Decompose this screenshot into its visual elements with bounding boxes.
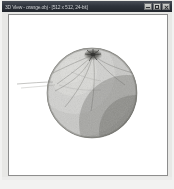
client-area	[8, 14, 168, 176]
title-bar-spacer	[88, 6, 144, 7]
close-button[interactable]	[162, 3, 170, 10]
minimize-button[interactable]	[144, 3, 152, 10]
minimize-icon	[146, 7, 150, 8]
application-window: 3D View - orange.obj - [512 x 512, 24-bi…	[2, 0, 172, 180]
render-viewport[interactable]	[9, 15, 167, 175]
sphere-render	[9, 15, 167, 175]
window-footer	[2, 177, 172, 180]
title-bar[interactable]: 3D View - orange.obj - [512 x 512, 24-bi…	[2, 1, 172, 12]
page-root: 3D View - orange.obj - [512 x 512, 24-bi…	[0, 0, 174, 189]
maximize-icon	[155, 5, 159, 9]
overhang-strand	[17, 82, 53, 84]
maximize-button[interactable]	[153, 3, 161, 10]
window-controls	[144, 3, 170, 10]
window-title: 3D View - orange.obj - [512 x 512, 24-bi…	[5, 3, 88, 9]
